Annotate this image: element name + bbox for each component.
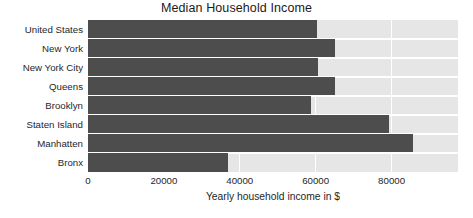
bar[interactable] [88,77,335,96]
bar-row[interactable] [88,115,458,134]
y-tick-label: Bronx [0,157,83,168]
bar[interactable] [88,58,318,77]
x-tick-label: 60000 [302,175,329,187]
x-axis-label: Yearly household income in $ [88,191,458,202]
bar-row[interactable] [88,96,458,115]
x-tick-label: 0 [85,175,90,187]
y-tick-label: Queens [0,81,83,92]
bar[interactable] [88,20,317,39]
y-tick-label: Manhatten [0,138,83,149]
chart-title: Median Household Income [0,1,473,15]
bar-row[interactable] [88,58,458,77]
bar[interactable] [88,153,228,172]
bar-row[interactable] [88,39,458,58]
y-tick-label: United States [0,24,83,35]
x-tick-label: 40000 [226,175,253,187]
x-axis-tick-labels: 020000400006000080000 [0,175,473,189]
bar-row[interactable] [88,153,458,172]
y-tick-label: New York [0,43,83,54]
bar[interactable] [88,96,311,115]
x-tick-label: 20000 [150,175,177,187]
bar-row[interactable] [88,20,458,39]
y-tick-label: Staten Island [0,119,83,130]
y-axis-tick-labels: United StatesNew YorkNew York CityQueens… [0,20,83,172]
plot-area [88,20,458,172]
y-tick-label: Brooklyn [0,100,83,111]
bar[interactable] [88,134,413,153]
bar-chart-figure: Median Household Income United StatesNew… [0,0,473,218]
bar-row[interactable] [88,134,458,153]
bar[interactable] [88,39,335,58]
bar[interactable] [88,115,389,134]
x-tick-label: 80000 [378,175,405,187]
bar-row[interactable] [88,77,458,96]
y-tick-label: New York City [0,62,83,73]
